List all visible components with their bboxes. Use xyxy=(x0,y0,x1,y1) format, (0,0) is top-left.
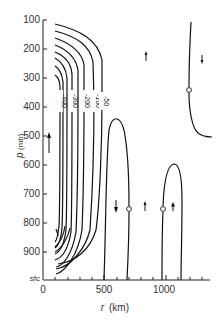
x-axis-label-symbol: r xyxy=(101,302,105,313)
x-tick-500: 500 xyxy=(96,284,113,295)
y-tick-labels: 100 200 300 400 500 600 700 800 900 sfc xyxy=(23,14,40,283)
contour-label-minus200: -200 xyxy=(84,94,91,108)
zero-marker-right xyxy=(161,207,166,212)
arrow-down-icon xyxy=(114,200,118,213)
x-axis-label-unit: (km) xyxy=(109,302,129,313)
y-tick-sfc: sfc xyxy=(30,274,40,283)
y-tick-100: 100 xyxy=(23,14,40,25)
y-ticks xyxy=(43,20,47,252)
x-ticks xyxy=(55,275,202,280)
contour-label-minus400: -400 xyxy=(61,94,68,108)
y-tick-500: 500 xyxy=(23,130,40,141)
zero-marker-upper xyxy=(187,88,192,93)
contour-value-labels: -400 -300 -200 -100 -50 xyxy=(57,90,110,112)
y-tick-400: 400 xyxy=(23,101,40,112)
y-axis-label-unit: (mb) xyxy=(16,133,25,150)
y-tick-600: 600 xyxy=(23,159,40,170)
arrow-up-icon xyxy=(171,202,175,211)
y-tick-800: 800 xyxy=(23,217,40,228)
y-tick-300: 300 xyxy=(23,72,40,83)
zero-contours xyxy=(104,22,212,280)
contour-chart: 100 200 300 400 500 600 700 800 900 sfc … xyxy=(0,0,224,321)
contour-label-minus50: -50 xyxy=(103,96,110,106)
motion-arrows xyxy=(47,51,204,213)
x-tick-0: 0 xyxy=(40,284,46,295)
y-tick-700: 700 xyxy=(23,188,40,199)
y-axis-label-symbol: p xyxy=(14,152,25,159)
x-tick-1000: 1000 xyxy=(153,284,176,295)
arrow-down-icon xyxy=(201,55,204,64)
y-tick-900: 900 xyxy=(23,246,40,257)
y-tick-200: 200 xyxy=(23,43,40,54)
arrow-up-icon xyxy=(145,51,148,61)
negative-contours xyxy=(55,24,102,274)
contour-label-minus300: -300 xyxy=(72,94,79,108)
y-axis-label: p (mb) xyxy=(14,133,25,159)
arrow-up-icon xyxy=(144,201,147,211)
zero-marker-middle xyxy=(127,207,132,212)
arrow-up-icon xyxy=(47,132,51,153)
